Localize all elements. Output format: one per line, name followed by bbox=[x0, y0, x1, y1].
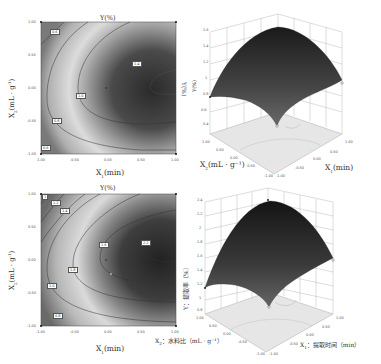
x-tick: 1.00 bbox=[336, 316, 344, 320]
y-tick: -1.00 bbox=[264, 174, 273, 178]
x-tick: 0.00 bbox=[104, 330, 112, 334]
z-tick: 2.4 bbox=[197, 198, 203, 202]
contour-label: 1.0 bbox=[47, 283, 57, 289]
x-axis-label-3d-top: X1(min) bbox=[325, 163, 353, 174]
x-tick: 0.50 bbox=[322, 325, 330, 329]
y-axis-label-top: X2(mL · g-1) bbox=[7, 79, 18, 118]
x-tick: -0.50 bbox=[70, 330, 79, 334]
x-tick: -0.50 bbox=[295, 166, 304, 170]
y-tick: 0.00 bbox=[223, 332, 231, 336]
contour-label: 1.4 bbox=[60, 208, 70, 214]
x-tick: -1.00 bbox=[36, 158, 45, 162]
surface-plot-top: 1.6 1.4 1.2 1 0.8 0.6 0.4 Y(%) 1.00 0.50… bbox=[190, 0, 381, 180]
contour-label: 1.2 bbox=[51, 200, 61, 206]
surface-plot-bottom: 2.4 2.2 2 1.8 1.6 1.4 1.2 1 0.8 Y：提取率（%）… bbox=[190, 180, 381, 364]
contour-label: 0.6 bbox=[50, 29, 60, 35]
y-axis-label-3d-top: X2(mL · g⁻¹) bbox=[200, 160, 245, 171]
y-tick: 0.00 bbox=[28, 258, 36, 262]
contour-label: 0.8 bbox=[53, 313, 63, 319]
x-tick: 1.00 bbox=[171, 330, 179, 334]
surface-graphic-top bbox=[190, 0, 381, 180]
x-tick: 0.50 bbox=[137, 330, 145, 334]
y-tick: -1.00 bbox=[27, 152, 36, 156]
z-axis-label-top: Y(%) bbox=[191, 80, 197, 92]
contour-title-bottom: Y(%) bbox=[100, 184, 116, 192]
contour-label: 0.6 bbox=[41, 145, 51, 151]
y-tick: 0.50 bbox=[209, 324, 217, 328]
z-tick: 1.4 bbox=[203, 44, 209, 48]
z-tick: 1.8 bbox=[197, 240, 203, 244]
y-tick: 0.50 bbox=[216, 148, 224, 152]
z-tick: 1 bbox=[205, 76, 207, 80]
y-tick: 1.00 bbox=[28, 192, 36, 196]
x-axis-label-bottom: X1(min) bbox=[96, 344, 124, 355]
z-tick: 0.4 bbox=[203, 122, 209, 126]
contour-label: 1.0 bbox=[76, 93, 86, 99]
x-tick: 1.00 bbox=[345, 140, 353, 144]
x-tick: -0.50 bbox=[70, 158, 79, 162]
contour-label: 1.6 bbox=[99, 242, 109, 248]
y-tick: 0.00 bbox=[28, 86, 36, 90]
x-tick: 0.00 bbox=[306, 333, 314, 337]
x-axis-label-top: X1(min) bbox=[96, 168, 124, 179]
z-axis-label-bottom: Y：提取率（%） bbox=[181, 264, 190, 310]
contour-plot-top: Y(%) 0.6 1.4 1.0 0.8 0.6 1.00 0.50 0.00 … bbox=[0, 0, 190, 180]
z-tick: 0.8 bbox=[203, 92, 209, 96]
x-axis-label-3d-bottom: X1：提取时间（min） bbox=[300, 340, 360, 350]
z-tick: 1.4 bbox=[197, 268, 203, 272]
y-tick: 1.00 bbox=[196, 316, 204, 320]
y-tick: 1.00 bbox=[28, 20, 36, 24]
contour-label: 1 bbox=[42, 194, 48, 200]
y-tick: -0.50 bbox=[238, 340, 247, 344]
z-tick: 2 bbox=[199, 226, 201, 230]
y-tick: -0.50 bbox=[27, 291, 36, 295]
y-tick: -1.00 bbox=[27, 324, 36, 328]
y-axis-label-bottom: X2(mL · g-1) bbox=[7, 251, 18, 290]
z-tick: 1.2 bbox=[197, 282, 203, 286]
z-tick: 0.8 bbox=[197, 308, 203, 312]
contour-label: 2.2 bbox=[141, 240, 151, 246]
y-tick: 0.50 bbox=[28, 53, 36, 57]
contour-label: 1.4 bbox=[132, 61, 142, 67]
x-tick: -0.50 bbox=[289, 342, 298, 346]
contour-label: 1.8 bbox=[68, 267, 78, 273]
right-label-top: Y(%) bbox=[181, 82, 188, 96]
contour-label: 0.8 bbox=[52, 118, 62, 124]
x-tick: -1.00 bbox=[276, 174, 285, 178]
x-tick: 0.00 bbox=[313, 157, 321, 161]
z-tick: 1.2 bbox=[203, 60, 209, 64]
y-tick: 0.50 bbox=[28, 225, 36, 229]
z-tick: 1.6 bbox=[203, 28, 209, 32]
x-tick: 1.00 bbox=[171, 158, 179, 162]
y-tick: -0.50 bbox=[246, 164, 255, 168]
y-tick: 1.00 bbox=[202, 140, 210, 144]
x-tick: 0.50 bbox=[137, 158, 145, 162]
z-tick: 0.6 bbox=[201, 108, 207, 112]
y-tick: -0.50 bbox=[27, 119, 36, 123]
x-tick: 0.50 bbox=[330, 150, 338, 154]
z-tick: 2.2 bbox=[197, 212, 203, 216]
x-tick: 0.00 bbox=[104, 158, 112, 162]
y-axis-label-3d-bottom: X2：水料比（mL · g⁻¹） bbox=[155, 336, 223, 346]
z-tick: 1.6 bbox=[197, 254, 203, 258]
z-tick: 1 bbox=[199, 296, 201, 300]
y-tick: -1.00 bbox=[256, 352, 265, 356]
x-tick: -1.00 bbox=[36, 330, 45, 334]
contour-title-top: Y(%) bbox=[100, 14, 116, 22]
x-tick: -1.00 bbox=[269, 352, 278, 356]
